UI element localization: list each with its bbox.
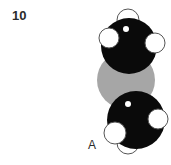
top-white-left-atom — [99, 28, 119, 48]
bottom-white-left-atom — [104, 122, 126, 144]
bottom-highlight-dot — [125, 101, 131, 107]
top-white-right-atom — [145, 33, 165, 53]
bottom-white-right-atom — [148, 109, 168, 129]
top-highlight-dot — [123, 26, 129, 32]
molecule-diagram — [0, 0, 171, 165]
panel-label: A — [88, 139, 96, 151]
